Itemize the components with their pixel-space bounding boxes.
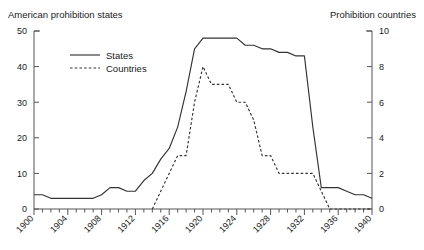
right-tick-label: 2 bbox=[379, 169, 384, 179]
legend-label-states: States bbox=[106, 50, 133, 61]
x-axis-tick-labels: 1900190419081912191619201924192819321936… bbox=[14, 213, 373, 234]
x-tick-label: 1920 bbox=[183, 213, 204, 234]
left-tick-label: 50 bbox=[17, 26, 27, 36]
right-tick-label: 8 bbox=[379, 62, 384, 72]
x-tick-label: 1900 bbox=[14, 213, 35, 234]
x-tick-label: 1912 bbox=[116, 213, 137, 234]
chart-legend: States Countries bbox=[70, 50, 147, 74]
left-tick-label: 30 bbox=[17, 98, 27, 108]
left-tick-label: 20 bbox=[17, 133, 27, 143]
right-tick-label: 10 bbox=[379, 26, 389, 36]
x-tick-label: 1940 bbox=[352, 213, 373, 234]
x-tick-label: 1904 bbox=[48, 213, 69, 234]
legend-label-countries: Countries bbox=[106, 63, 147, 74]
axes-group bbox=[34, 31, 372, 209]
left-tick-label: 0 bbox=[22, 204, 27, 214]
left-tick-label: 10 bbox=[17, 169, 27, 179]
x-tick-label: 1916 bbox=[149, 213, 170, 234]
x-tick-label: 1908 bbox=[82, 213, 103, 234]
left-axis-ticks: 01020304050 bbox=[17, 26, 39, 214]
chart-canvas: American prohibition states Prohibition … bbox=[0, 0, 424, 250]
left-axis-title: American prohibition states bbox=[8, 9, 123, 20]
right-axis-title: Prohibition countries bbox=[330, 9, 416, 20]
left-tick-label: 40 bbox=[17, 62, 27, 72]
right-tick-label: 4 bbox=[379, 133, 384, 143]
right-axis-ticks: 0246810 bbox=[367, 26, 389, 214]
right-tick-label: 6 bbox=[379, 98, 384, 108]
x-tick-label: 1924 bbox=[217, 213, 238, 234]
series-line-states bbox=[34, 38, 372, 198]
x-tick-label: 1932 bbox=[285, 213, 306, 234]
x-tick-label: 1928 bbox=[251, 213, 272, 234]
data-series-group bbox=[34, 38, 372, 209]
right-tick-label: 0 bbox=[379, 204, 384, 214]
x-axis-ticks bbox=[34, 209, 372, 215]
x-tick-label: 1936 bbox=[318, 213, 339, 234]
prohibition-line-chart: American prohibition states Prohibition … bbox=[0, 0, 424, 250]
